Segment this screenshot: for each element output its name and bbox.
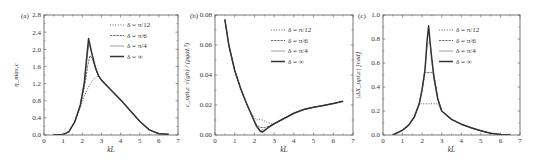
x-tick-label: 6: [499, 137, 503, 145]
x-tick-label: 6: [332, 137, 336, 145]
x-tick-label: 0: [381, 137, 385, 145]
series-line: [393, 73, 510, 135]
panel-c: 012345670.00.20.40.60.81.0(c)kL|ΔX_opt,c…: [354, 11, 522, 154]
y-tick-label: 0.0: [32, 131, 41, 139]
legend-entry: δ = π/6: [456, 37, 476, 45]
y-tick-label: 0.4: [371, 83, 380, 91]
legend-entry: δ = π/6: [127, 32, 147, 40]
x-tick-label: 4: [292, 137, 296, 145]
x-tick-label: 5: [479, 137, 483, 145]
x-tick-label: 7: [518, 137, 522, 145]
figure: 012345670.00.40.81.21.62.02.42.8(a)kLη_m…: [0, 0, 538, 162]
plot-frame: [383, 15, 520, 135]
y-tick-label: 0.0: [371, 131, 380, 139]
y-tick-label: 1.0: [371, 11, 380, 19]
x-tick-label: 5: [312, 137, 316, 145]
x-tick-label: 2: [420, 137, 424, 145]
x-tick-label: 1: [61, 137, 65, 145]
series-line: [393, 41, 510, 135]
y-axis-label: |ΔX_opt,c| [rad]: [354, 52, 362, 99]
legend-entry: δ = π/12: [127, 21, 151, 29]
series-line: [225, 20, 343, 124]
legend-entry: δ = π/12: [456, 26, 480, 34]
series-line: [225, 20, 343, 128]
y-tick-label: 1.6: [32, 63, 41, 71]
x-tick-label: 7: [351, 137, 355, 145]
series-group: [225, 20, 343, 133]
legend-entry: δ = π/4: [127, 42, 147, 50]
legend-entry: δ = π/4: [456, 47, 476, 55]
y-tick-label: 0.2: [371, 107, 380, 115]
x-tick-label: 3: [440, 137, 444, 145]
series-line: [54, 76, 169, 135]
series-line: [54, 56, 169, 135]
y-axis-label: η_max,c: [12, 62, 20, 86]
x-tick-label: 4: [119, 137, 123, 145]
x-tick-label: 3: [100, 137, 104, 145]
legend: δ = π/12δ = π/6δ = π/4δ = ∞: [439, 26, 480, 66]
y-tick-label: 2.0: [32, 46, 41, 54]
x-tick-label: 1: [233, 137, 237, 145]
y-tick-label: 2.8: [32, 11, 41, 19]
x-tick-label: 7: [176, 137, 180, 145]
panel-label: (a): [21, 12, 29, 20]
panel-b: 012345670.000.020.040.060.08(b)kLc_opt,c…: [183, 11, 355, 154]
legend: δ = π/12δ = π/6δ = π/4δ = ∞: [110, 21, 151, 61]
x-tick-label: 2: [253, 137, 257, 145]
y-tick-label: 0.8: [371, 35, 380, 43]
legend-entry: δ = ∞: [288, 58, 304, 66]
series-group: [54, 39, 169, 135]
legend-entry: δ = ∞: [127, 53, 143, 61]
series-line: [54, 39, 169, 135]
y-tick-label: 0.8: [32, 97, 41, 105]
y-tick-label: 0.02: [200, 101, 213, 109]
legend-entry: δ = π/12: [288, 26, 312, 34]
x-tick-label: 0: [213, 137, 217, 145]
series-line: [225, 20, 343, 131]
x-tick-label: 0: [42, 137, 46, 145]
x-tick-label: 2: [81, 137, 85, 145]
x-tick-label: 1: [401, 137, 405, 145]
figure-canvas: 012345670.00.40.81.21.62.02.42.8(a)kLη_m…: [0, 0, 538, 162]
series-line: [225, 20, 343, 133]
y-tick-label: 0.04: [200, 71, 213, 79]
y-tick-label: 0.08: [200, 11, 213, 19]
series-line: [393, 26, 510, 135]
x-axis-label: kL: [448, 145, 456, 154]
series-group: [393, 26, 510, 135]
panel-label: (b): [190, 12, 199, 20]
legend-entry: δ = ∞: [456, 58, 472, 66]
y-tick-label: 0.6: [371, 59, 380, 67]
y-tick-label: 0.4: [32, 114, 41, 122]
x-tick-label: 5: [138, 137, 142, 145]
panel-label: (c): [358, 12, 366, 20]
y-tick-label: 2.4: [32, 29, 41, 37]
plot-frame: [44, 15, 178, 135]
legend: δ = π/12δ = π/6δ = π/4δ = ∞: [271, 26, 312, 66]
y-tick-label: 1.2: [32, 80, 41, 88]
y-tick-label: 0.06: [200, 41, 213, 49]
x-axis-label: kL: [107, 145, 115, 154]
x-axis-label: kL: [280, 145, 288, 154]
x-tick-label: 6: [157, 137, 161, 145]
y-tick-label: 0.00: [200, 131, 213, 139]
x-tick-label: 4: [460, 137, 464, 145]
legend-entry: δ = π/4: [288, 47, 308, 55]
y-axis-label: c_opt,c √(gh) / (ρgaL²): [183, 42, 191, 107]
legend-entry: δ = π/6: [288, 37, 308, 45]
x-tick-label: 3: [272, 137, 276, 145]
panel-a: 012345670.00.40.81.21.62.02.42.8(a)kLη_m…: [12, 11, 180, 154]
